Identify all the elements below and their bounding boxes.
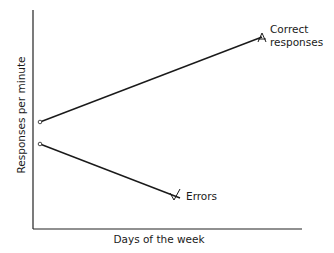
series-correct-responses	[38, 33, 266, 124]
line-chart: Correct responses Errors Days of the wee…	[0, 0, 334, 253]
series-errors	[38, 142, 180, 200]
series-label-errors: Errors	[186, 190, 217, 202]
y-axis-label: Responses per minute	[15, 56, 27, 173]
start-point-marker	[38, 120, 42, 124]
start-point-marker	[38, 142, 42, 146]
series-label-correct-line1: Correct	[270, 23, 308, 35]
x-axis-label: Days of the week	[113, 233, 205, 245]
series-label-correct-line2: responses	[270, 36, 323, 48]
